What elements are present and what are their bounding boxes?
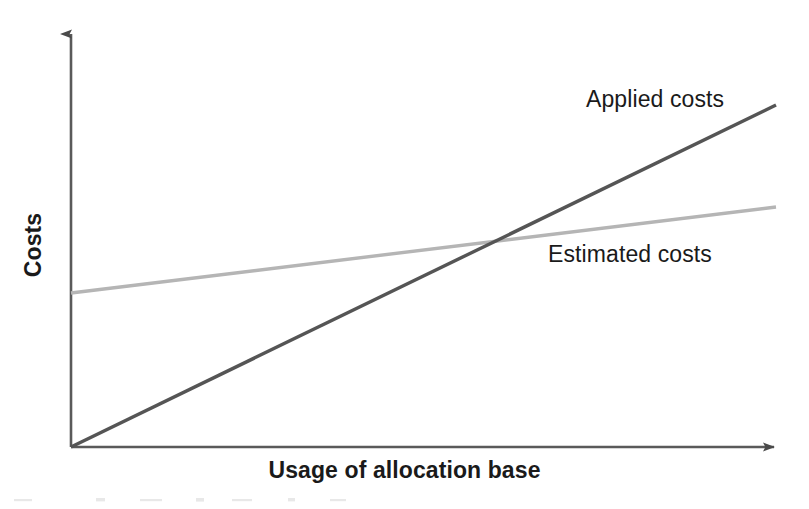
chart-container: Applied costs Estimated costs Usage of a… [0,0,809,509]
series-label-estimated-costs: Estimated costs [548,243,712,266]
series-line-applied-costs [71,105,776,447]
y-axis-title: Costs [22,213,45,277]
series-label-applied-costs: Applied costs [586,88,724,111]
x-axis-title: Usage of allocation base [0,459,809,482]
